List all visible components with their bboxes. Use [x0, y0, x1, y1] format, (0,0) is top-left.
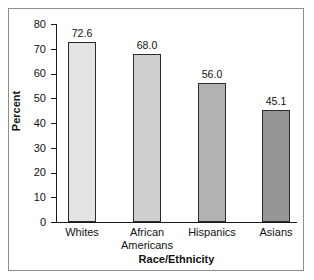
x-category-label-whites: Whites [45, 226, 119, 239]
bar-african-americans[interactable] [133, 54, 161, 223]
x-category-line: Americans [110, 239, 184, 252]
y-tick-label-10: 10 [6, 192, 46, 203]
x-category-line: African [110, 226, 184, 239]
x-category-line: Asians [239, 226, 313, 239]
bar-value-asians: 45.1 [250, 96, 302, 107]
y-tick-mark-70 [51, 49, 56, 50]
y-tick-mark-10 [51, 197, 56, 198]
bar-value-whites: 72.6 [56, 28, 108, 39]
y-tick-label-0: 0 [6, 217, 46, 228]
bar-whites[interactable] [68, 42, 96, 222]
y-axis-line [56, 24, 57, 223]
x-axis-title: Race/Ethnicity [56, 253, 297, 265]
y-tick-mark-40 [51, 123, 56, 124]
bar-hispanics[interactable] [198, 83, 226, 222]
y-tick-mark-60 [51, 74, 56, 75]
x-category-label-asians: Asians [239, 226, 313, 239]
y-tick-mark-0 [51, 222, 56, 223]
bar-value-hispanics: 56.0 [186, 69, 238, 80]
y-axis-title: Percent [10, 71, 22, 151]
plot-area: 80 70 60 50 40 30 20 10 0 72.6 68.0 56.0… [0, 0, 314, 280]
y-tick-mark-50 [51, 98, 56, 99]
bar-value-african-americans: 68.0 [121, 40, 173, 51]
y-tick-label-20: 20 [6, 167, 46, 178]
x-category-label-african-americans: African Americans [110, 226, 184, 251]
x-category-line: Hispanics [175, 226, 249, 239]
bar-asians[interactable] [262, 110, 290, 222]
y-tick-mark-30 [51, 148, 56, 149]
chart-figure: 80 70 60 50 40 30 20 10 0 72.6 68.0 56.0… [0, 0, 314, 280]
x-category-line: Whites [45, 226, 119, 239]
y-tick-mark-80 [51, 24, 56, 25]
x-category-label-hispanics: Hispanics [175, 226, 249, 239]
y-tick-label-80: 80 [6, 19, 46, 30]
y-tick-mark-20 [51, 173, 56, 174]
y-tick-label-70: 70 [6, 44, 46, 55]
